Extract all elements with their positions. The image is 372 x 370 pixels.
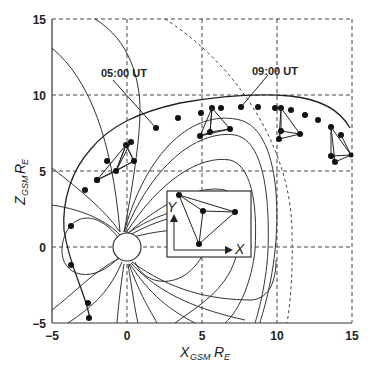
svg-text:5: 5: [39, 165, 46, 179]
inset-panel: X Y: [167, 191, 251, 257]
svg-text:Z: Z: [12, 196, 28, 206]
svg-text:5: 5: [199, 329, 206, 343]
svg-text:GSM: GSM: [20, 175, 30, 196]
inset-x-label: X: [234, 241, 245, 257]
svg-text:0: 0: [124, 329, 131, 343]
y-axis-label: Z GSM R E: [12, 158, 30, 206]
x-ticks: −5 0 5 10 15: [45, 329, 359, 343]
svg-text:GSM: GSM: [190, 352, 211, 362]
svg-text:R: R: [214, 344, 224, 360]
svg-text:X: X: [179, 344, 190, 360]
svg-text:15: 15: [33, 13, 47, 27]
annotation-0900: 09:00 UT: [252, 65, 298, 77]
svg-text:10: 10: [270, 329, 284, 343]
figure: X Y 05:00 UT 09:00 UT 15 10 5 0 −5 −5 0 …: [0, 0, 372, 370]
grid: [52, 19, 352, 323]
x-axis-label: X GSM R E: [179, 344, 231, 362]
svg-text:E: E: [20, 158, 30, 165]
earth: [113, 233, 141, 261]
annotation-0500: 05:00 UT: [101, 67, 147, 79]
svg-text:E: E: [224, 352, 231, 362]
y-ticks: 15 10 5 0 −5: [32, 13, 46, 331]
svg-text:0: 0: [39, 241, 46, 255]
svg-text:10: 10: [33, 89, 47, 103]
svg-text:15: 15: [345, 329, 359, 343]
svg-text:−5: −5: [45, 329, 59, 343]
leader-0500: [113, 80, 156, 128]
magnetosphere-diagram: X Y 05:00 UT 09:00 UT 15 10 5 0 −5 −5 0 …: [0, 0, 372, 370]
leader-0900: [241, 75, 268, 107]
